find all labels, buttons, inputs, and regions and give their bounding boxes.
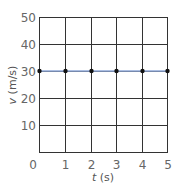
x-axis-label: t (s) bbox=[92, 171, 114, 184]
data-point bbox=[165, 69, 169, 73]
y-tick-label: 20 bbox=[21, 92, 36, 106]
x-tick-labels: 0 1 2 3 4 5 bbox=[29, 158, 172, 172]
x-tick-label: 5 bbox=[164, 158, 172, 172]
x-tick-label: 1 bbox=[62, 158, 70, 172]
velocity-time-chart: 50 40 30 20 10 0 1 2 3 4 5 t (s) v (m/s) bbox=[0, 0, 176, 184]
y-tick-label: 40 bbox=[21, 38, 36, 52]
data-point bbox=[89, 69, 93, 73]
data-point bbox=[114, 69, 118, 73]
x-tick-label: 3 bbox=[113, 158, 121, 172]
x-axis-var: t bbox=[92, 171, 97, 184]
x-axis-unit: (s) bbox=[100, 171, 114, 184]
x-tick-label: 4 bbox=[139, 158, 147, 172]
y-axis-label: v (m/s) bbox=[6, 66, 19, 105]
data-point bbox=[63, 69, 67, 73]
x-tick-label: 2 bbox=[88, 158, 96, 172]
y-tick-label: 50 bbox=[21, 11, 36, 25]
data-point bbox=[37, 69, 41, 73]
y-axis-var: v bbox=[6, 97, 19, 104]
origin-label: 0 bbox=[29, 158, 37, 172]
y-tick-labels: 50 40 30 20 10 bbox=[21, 11, 36, 133]
y-tick-label: 10 bbox=[21, 119, 36, 133]
data-point bbox=[140, 69, 144, 73]
grid bbox=[39, 17, 168, 153]
y-tick-label: 30 bbox=[21, 65, 36, 79]
y-axis-unit: (m/s) bbox=[6, 66, 19, 95]
